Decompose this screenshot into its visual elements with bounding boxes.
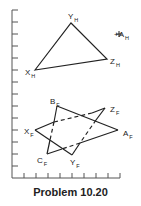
vertex-label: +AH <box>114 30 129 41</box>
edge-bf-af <box>57 106 118 130</box>
vertical-ticks <box>12 10 18 166</box>
vertex-label: ZF <box>110 105 120 116</box>
horizontal-ticks <box>24 173 120 178</box>
edge-zf-yf-hidden <box>80 120 96 143</box>
edge-bf-cf-hidden <box>50 122 54 140</box>
vertex-label: YH <box>68 12 78 23</box>
vertex-label: CF <box>37 156 48 167</box>
edge-af-cf-visible <box>80 130 118 143</box>
edge-bf-cf-visible <box>54 106 57 122</box>
edge-bf-cf-visible-2 <box>47 140 50 154</box>
descriptive-geometry-figure: YHXHZH+AHBFZFXFAFCFYF <box>0 0 141 206</box>
edge-xf-zf-visible <box>35 122 54 130</box>
vertex-label: XF <box>24 127 34 138</box>
front-view-triangles <box>35 106 118 155</box>
vertex-label: YF <box>70 158 80 169</box>
frame-axes <box>12 10 120 178</box>
vertex-label: AF <box>123 129 133 140</box>
vertex-label: XH <box>25 68 35 79</box>
figure-caption: Problem 10.20 <box>0 186 141 198</box>
vertex-label: ZH <box>110 57 120 68</box>
top-view-triangle <box>35 23 107 70</box>
vertex-label: BF <box>50 97 60 108</box>
edge-af-cf-visible-2 <box>47 149 62 154</box>
